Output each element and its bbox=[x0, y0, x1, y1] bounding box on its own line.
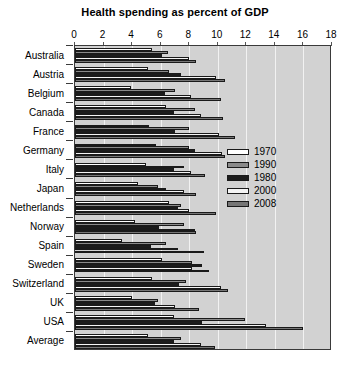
plot-area bbox=[74, 45, 331, 350]
category-label-norway: Norway bbox=[30, 221, 64, 232]
x-tick-label: 16 bbox=[297, 29, 308, 40]
category-label-austria: Austria bbox=[33, 68, 64, 79]
legend-item-2000: 2000 bbox=[227, 185, 289, 196]
bar-switzerland-2008 bbox=[75, 289, 228, 292]
bar-norway-2008 bbox=[75, 231, 196, 234]
category-label-netherlands: Netherlands bbox=[10, 202, 64, 213]
chart-title: Health spending as percent of GDP bbox=[0, 6, 350, 18]
category-label-sweden: Sweden bbox=[28, 259, 64, 270]
x-tick-label: 8 bbox=[185, 29, 191, 40]
bar-canada-2008 bbox=[75, 117, 223, 120]
legend-label-2008: 2008 bbox=[254, 199, 276, 209]
bar-netherlands-2008 bbox=[75, 212, 216, 215]
category-tick bbox=[66, 64, 73, 65]
legend-swatch-2000 bbox=[227, 188, 249, 194]
gridline bbox=[303, 46, 304, 349]
bar-uk-2008 bbox=[75, 308, 199, 311]
category-tick bbox=[66, 274, 73, 275]
category-tick bbox=[66, 83, 73, 84]
bar-spain-2008 bbox=[75, 251, 204, 254]
legend-swatch-1990 bbox=[227, 162, 249, 168]
category-label-france: France bbox=[33, 125, 64, 136]
bar-australia-2008 bbox=[75, 60, 196, 63]
gridline bbox=[218, 46, 219, 349]
bar-germany-2008 bbox=[75, 155, 225, 158]
category-tick bbox=[66, 121, 73, 122]
category-label-belgium: Belgium bbox=[28, 87, 64, 98]
category-label-japan: Japan bbox=[37, 182, 64, 193]
category-tick bbox=[66, 293, 73, 294]
bar-belgium-2008 bbox=[75, 98, 221, 101]
legend-item-1970: 1970 bbox=[227, 146, 289, 157]
x-tick-label: 4 bbox=[128, 29, 134, 40]
bar-average-2008 bbox=[75, 346, 215, 349]
category-label-germany: Germany bbox=[23, 144, 64, 155]
category-tick bbox=[66, 198, 73, 199]
category-axis-labels: AustraliaAustriaBelgiumCanadaFranceGerma… bbox=[0, 45, 70, 350]
bar-austria-2008 bbox=[75, 79, 225, 82]
x-tick-label: 6 bbox=[157, 29, 163, 40]
legend-label-1970: 1970 bbox=[254, 147, 276, 157]
bar-usa-2008 bbox=[75, 327, 303, 330]
legend-swatch-2008 bbox=[227, 201, 249, 207]
x-tick-label: 12 bbox=[240, 29, 251, 40]
category-tick bbox=[66, 312, 73, 313]
category-tick bbox=[66, 140, 73, 141]
legend-swatch-1970 bbox=[227, 149, 249, 155]
legend-item-1980: 1980 bbox=[227, 172, 289, 183]
bar-france-2008 bbox=[75, 136, 235, 139]
legend-label-2000: 2000 bbox=[254, 186, 276, 196]
chart-legend: 19701990198020002008 bbox=[227, 146, 289, 211]
category-tick bbox=[66, 331, 73, 332]
category-tick bbox=[66, 255, 73, 256]
x-tick-label: 18 bbox=[325, 29, 336, 40]
category-label-spain: Spain bbox=[38, 240, 64, 251]
bar-italy-2008 bbox=[75, 174, 205, 177]
x-tick-mark bbox=[331, 42, 332, 46]
category-tick bbox=[66, 217, 73, 218]
bar-japan-2008 bbox=[75, 193, 196, 196]
category-label-canada: Canada bbox=[29, 106, 64, 117]
category-label-uk: UK bbox=[50, 297, 64, 308]
category-label-switzerland: Switzerland bbox=[12, 278, 64, 289]
category-tick bbox=[66, 236, 73, 237]
category-label-italy: Italy bbox=[46, 163, 64, 174]
legend-label-1980: 1980 bbox=[254, 173, 276, 183]
x-tick-label: 14 bbox=[268, 29, 279, 40]
x-axis: 024681012141618 bbox=[74, 29, 331, 45]
category-label-usa: USA bbox=[43, 316, 64, 327]
chart-root: Health spending as percent of GDP 024681… bbox=[0, 0, 350, 368]
x-tick-label: 10 bbox=[211, 29, 222, 40]
category-tick bbox=[66, 178, 73, 179]
category-label-australia: Australia bbox=[25, 49, 64, 60]
gridline bbox=[189, 46, 190, 349]
category-tick bbox=[66, 159, 73, 160]
legend-item-1990: 1990 bbox=[227, 159, 289, 170]
legend-swatch-1980 bbox=[227, 175, 249, 181]
x-tick-label: 0 bbox=[71, 29, 77, 40]
bar-sweden-2008 bbox=[75, 270, 209, 273]
legend-label-1990: 1990 bbox=[254, 160, 276, 170]
category-label-average: Average bbox=[27, 335, 64, 346]
legend-item-2008: 2008 bbox=[227, 198, 289, 209]
category-tick bbox=[66, 102, 73, 103]
category-tick bbox=[66, 45, 73, 46]
x-tick-label: 2 bbox=[100, 29, 106, 40]
